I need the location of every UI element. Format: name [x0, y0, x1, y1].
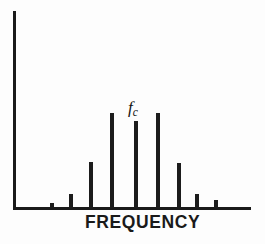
- spectral-line-fc: [134, 121, 138, 208]
- y-axis-line: [13, 11, 16, 210]
- carrier-frequency-label: fc: [128, 99, 138, 119]
- spectral-line-sb-2L: [89, 162, 93, 208]
- spectral-line-sb-4U: [214, 200, 217, 208]
- spectral-line-sb-3L: [69, 194, 72, 208]
- plot-area: fc FREQUENCY: [0, 0, 265, 244]
- x-axis-title: FREQUENCY: [85, 214, 200, 232]
- spectral-line-sb-1L: [110, 113, 114, 208]
- spectrum-figure: fc FREQUENCY: [0, 0, 265, 244]
- carrier-subscript: c: [133, 106, 138, 118]
- spectral-line-sb-1U: [156, 113, 160, 208]
- spectral-line-sb-3U: [195, 194, 198, 208]
- spectral-line-sb-4L: [50, 203, 53, 208]
- spectral-line-sb-2U: [177, 163, 181, 208]
